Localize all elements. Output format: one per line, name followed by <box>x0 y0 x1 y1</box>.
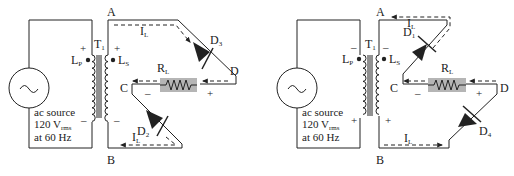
node-c: C <box>390 81 398 95</box>
node-a: A <box>107 5 116 19</box>
diode-d2-triangle <box>146 110 163 129</box>
current-label-top: IL <box>140 24 148 39</box>
primary-top-polarity: + <box>80 42 86 54</box>
load-resistor: RL – + <box>414 61 482 99</box>
secondary-bottom-polarity: – <box>113 114 120 126</box>
sine-wave-icon <box>20 86 38 93</box>
node-b: B <box>376 153 384 167</box>
source-label-line3: at 60 Hz <box>302 131 339 143</box>
secondary-label: LS <box>118 53 129 68</box>
resistor-plus: + <box>207 87 213 99</box>
resistor-plus: + <box>476 87 482 99</box>
diode-d3-label: D3 <box>210 33 223 48</box>
resistor-minus: – <box>144 87 151 99</box>
primary-coil <box>92 55 95 121</box>
primary-label: LP <box>342 52 353 67</box>
secondary-dot <box>111 58 115 62</box>
source-label-line2: 120 Vrms <box>34 118 72 132</box>
source-label-line1: ac source <box>34 106 75 118</box>
current-path-a-d3 <box>114 25 190 42</box>
wire-a-to-d <box>108 20 236 84</box>
current-label-bottom: IL <box>404 131 412 146</box>
node-a: A <box>376 5 385 19</box>
circuit-left: ac source 120 Vrms at 60 Hz T1 LP LS + –… <box>9 5 239 167</box>
node-d: D <box>230 64 239 78</box>
ac-source-circle <box>277 68 317 108</box>
primary-bottom-polarity: + <box>351 114 357 126</box>
primary-dot <box>86 58 90 62</box>
node-d: D <box>500 81 509 95</box>
primary-label: LP <box>71 53 82 68</box>
ac-source-circle <box>9 68 49 108</box>
transformer-label: T1 <box>94 37 105 52</box>
bridge-rectifier-diagrams: ac source 120 Vrms at 60 Hz T1 LP LS + –… <box>0 0 514 176</box>
primary-bottom-polarity: – <box>80 114 87 126</box>
secondary-label: LS <box>389 52 400 67</box>
transformer-label: T1 <box>365 37 376 52</box>
resistor-label: RL <box>441 61 453 76</box>
diode-d2: D2 <box>137 110 168 139</box>
diode-d4-label: D4 <box>479 124 492 139</box>
secondary-top-polarity: + <box>114 42 120 54</box>
secondary-top-polarity: – <box>382 41 389 53</box>
sine-wave-icon <box>288 86 306 93</box>
diode-d4: D4 <box>458 106 492 139</box>
current-label-top: IL <box>407 16 415 31</box>
source-label-line2: 120 Vrms <box>302 118 340 132</box>
node-c: C <box>120 81 128 95</box>
resistor-label: RL <box>157 61 169 76</box>
secondary-coil <box>105 55 108 121</box>
ac-source: ac source 120 Vrms at 60 Hz <box>277 20 360 148</box>
source-label-line1: ac source <box>302 106 343 118</box>
current-path-d1-a <box>392 17 450 48</box>
source-label-line3: at 60 Hz <box>34 131 71 143</box>
primary-top-polarity: – <box>350 41 357 53</box>
resistor-minus: – <box>414 87 421 99</box>
secondary-bottom-polarity: + <box>385 114 391 126</box>
circuit-right: ac source 120 Vrms at 60 Hz T1 LP LS – +… <box>277 5 509 167</box>
node-b: B <box>107 153 115 167</box>
ac-source: ac source 120 Vrms at 60 Hz <box>9 20 92 148</box>
